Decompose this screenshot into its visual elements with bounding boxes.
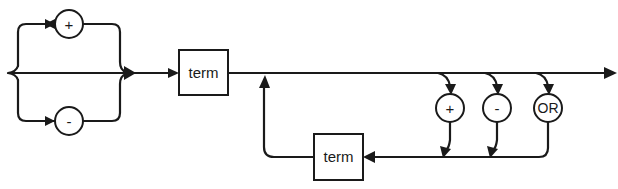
plus-branch-in (18, 24, 55, 66)
plus-op-out (446, 122, 450, 150)
minus-op-out (493, 122, 497, 150)
arrow-right-icon (45, 116, 55, 126)
syntax-diagram: + - term term + - OR (0, 0, 618, 189)
minus-branch-out (83, 74, 126, 121)
arrow-right-icon (168, 68, 179, 78)
sign-minus-label: - (67, 113, 72, 130)
exit-arrow-icon (604, 67, 617, 79)
arrow-left-icon (363, 151, 375, 163)
merge-arrow-icon (124, 66, 136, 80)
first-term-label: term (189, 64, 219, 81)
loop-bottom-line (372, 122, 548, 157)
arrow-up-icon (259, 75, 270, 88)
operator-plus-label: + (446, 100, 455, 117)
loop-term-label: term (324, 148, 354, 165)
operator-minus-label: - (495, 100, 500, 117)
sign-plus-label: + (65, 16, 74, 33)
loop-up-line (264, 86, 314, 157)
operator-or-label: OR (538, 100, 559, 116)
minus-branch-in (18, 80, 55, 121)
plus-branch-out (83, 24, 126, 72)
